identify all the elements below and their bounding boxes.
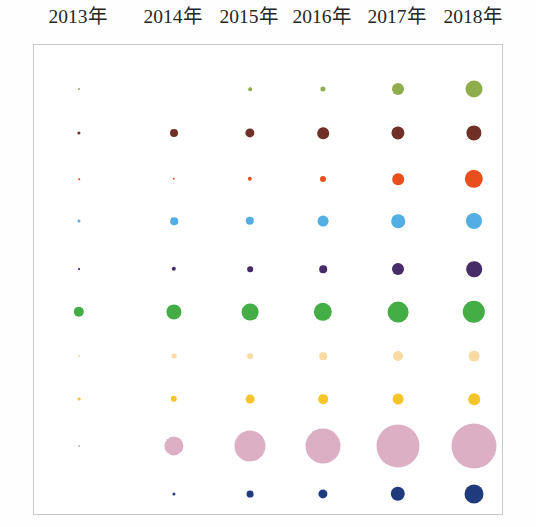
bubble-series-1-2016 <box>320 86 325 91</box>
bubble-row-4 <box>34 45 502 514</box>
bubble-series-9-2015 <box>235 431 266 462</box>
bubble-series-6-2015 <box>242 304 259 321</box>
column-header-row: 2013年2014年2015年2016年2017年2018年 <box>0 0 536 42</box>
bubble-series-7-2018 <box>469 351 480 362</box>
bubble-series-8-2013 <box>78 398 81 401</box>
bubble-series-8-2018 <box>468 393 480 405</box>
bubble-series-5-2015 <box>247 266 253 272</box>
bubble-series-1-2018 <box>466 81 483 98</box>
bubble-matrix-figure: 2013年2014年2015年2016年2017年2018年 <box>0 0 536 527</box>
bubble-series-10-2016 <box>318 489 327 498</box>
bubble-series-1-2017 <box>392 83 404 95</box>
bubble-series-5-2018 <box>466 261 482 277</box>
column-header-2015: 2015年 <box>220 4 279 30</box>
bubble-series-1-2015 <box>248 87 252 91</box>
bubble-series-8-2014 <box>171 396 177 402</box>
bubble-row-10 <box>34 45 502 514</box>
bubble-series-2-2014 <box>170 129 178 137</box>
bubble-row-2 <box>34 45 502 514</box>
bubble-series-3-2017 <box>392 173 404 185</box>
bubble-series-9-2014 <box>164 436 183 455</box>
bubble-series-2-2018 <box>466 125 481 140</box>
bubble-series-5-2013 <box>78 268 80 270</box>
bubble-series-3-2014 <box>173 178 175 180</box>
bubble-series-6-2016 <box>314 303 332 321</box>
column-header-2016: 2016年 <box>293 4 352 30</box>
bubble-series-9-2017 <box>377 425 420 468</box>
bubble-series-7-2015 <box>247 353 253 359</box>
bubble-series-8-2015 <box>246 395 255 404</box>
bubble-series-10-2015 <box>247 491 254 498</box>
bubble-series-10-2014 <box>172 492 175 495</box>
bubble-series-5-2016 <box>319 265 327 273</box>
bubble-layer <box>34 45 502 514</box>
bubble-series-6-2014 <box>166 304 181 319</box>
bubble-series-4-2013 <box>77 219 80 222</box>
bubble-series-2-2017 <box>391 126 404 139</box>
bubble-series-3-2013 <box>78 178 80 180</box>
bubble-series-2-2015 <box>245 128 254 137</box>
bubble-series-2-2016 <box>317 127 329 139</box>
bubble-series-4-2016 <box>318 216 329 227</box>
bubble-series-2-2013 <box>77 131 80 134</box>
bubble-series-6-2017 <box>388 302 409 323</box>
bubble-series-8-2017 <box>393 394 404 405</box>
bubble-series-5-2014 <box>172 267 176 271</box>
bubble-series-1-2013 <box>78 88 80 90</box>
column-header-2014: 2014年 <box>144 4 203 30</box>
bubble-series-7-2016 <box>319 352 327 360</box>
plot-panel <box>33 44 503 515</box>
bubble-series-9-2016 <box>306 429 341 464</box>
bubble-series-4-2015 <box>246 217 254 225</box>
bubble-series-9-2013 <box>78 445 80 447</box>
bubble-series-7-2013 <box>78 355 80 357</box>
bubble-row-7 <box>34 45 502 514</box>
bubble-row-3 <box>34 45 502 514</box>
column-header-2018: 2018年 <box>444 4 503 30</box>
bubble-series-3-2018 <box>465 170 483 188</box>
bubble-series-8-2016 <box>318 394 328 404</box>
bubble-series-4-2017 <box>391 214 405 228</box>
bubble-row-6 <box>34 45 502 514</box>
bubble-series-5-2017 <box>392 263 404 275</box>
bubble-row-8 <box>34 45 502 514</box>
bubble-series-6-2013 <box>74 307 84 317</box>
bubble-row-9 <box>34 45 502 514</box>
bubble-series-10-2018 <box>465 485 484 504</box>
bubble-series-7-2017 <box>393 351 403 361</box>
bubble-series-9-2018 <box>452 424 497 469</box>
bubble-series-4-2018 <box>466 213 482 229</box>
bubble-series-7-2014 <box>172 354 177 359</box>
bubble-series-10-2017 <box>391 487 405 501</box>
column-header-2013: 2013年 <box>49 4 108 30</box>
bubble-series-4-2014 <box>170 217 178 225</box>
bubble-series-3-2016 <box>320 176 326 182</box>
bubble-row-5 <box>34 45 502 514</box>
bubble-series-6-2018 <box>463 301 485 323</box>
bubble-series-3-2015 <box>248 177 252 181</box>
bubble-row-1 <box>34 45 502 514</box>
column-header-2017: 2017年 <box>368 4 427 30</box>
